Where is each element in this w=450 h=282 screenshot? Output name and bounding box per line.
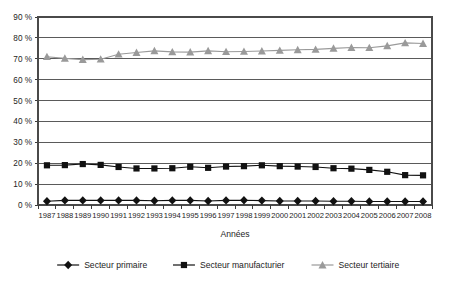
series-line	[47, 43, 423, 60]
series-marker-diamond	[186, 196, 194, 204]
x-axis-ticks: 1987198819891990199119921993199419951996…	[38, 205, 432, 220]
series-marker-square	[181, 262, 187, 268]
series-marker-diamond	[204, 197, 212, 205]
series-marker-diamond	[294, 197, 302, 205]
series-marker-square	[62, 162, 68, 168]
y-tick-label: 0 %	[18, 201, 32, 210]
series-marker-square	[366, 167, 372, 173]
x-tick-label: 1993	[146, 211, 163, 220]
series-marker-square	[205, 165, 211, 171]
x-tick-label: 2003	[325, 211, 342, 220]
series-marker-square	[277, 163, 283, 169]
series-marker-diamond	[312, 197, 320, 205]
series-marker-diamond	[115, 196, 123, 204]
series-marker-square	[115, 164, 121, 170]
series-marker-diamond	[240, 196, 248, 204]
x-tick-label: 1995	[182, 211, 199, 220]
series-marker-square	[348, 166, 354, 172]
series-marker-diamond	[61, 196, 69, 204]
series-marker-square	[187, 164, 193, 170]
x-tick-label: 1990	[92, 211, 109, 220]
series-marker-diamond	[347, 197, 355, 205]
series-marker-square	[133, 165, 139, 171]
series-marker-diamond	[150, 197, 158, 205]
series-marker-square	[402, 172, 408, 178]
series-marker-diamond	[97, 196, 105, 204]
series-marker-square	[98, 162, 104, 168]
y-tick-label: 30 %	[13, 138, 32, 147]
x-tick-label: 2001	[289, 211, 306, 220]
legend-label: Secteur primaire	[84, 260, 147, 270]
y-tick-label: 50 %	[13, 97, 32, 106]
series-marker-square	[80, 161, 86, 167]
y-tick-label: 60 %	[13, 76, 32, 85]
x-tick-label: 1988	[56, 211, 73, 220]
series-marker-square	[259, 162, 265, 168]
x-tick-label: 1997	[218, 211, 235, 220]
x-tick-label: 2000	[271, 211, 288, 220]
gridlines	[38, 17, 432, 184]
line-chart: 0 %10 %20 %30 %40 %50 %60 %70 %80 %90 %1…	[0, 0, 450, 282]
y-tick-label: 90 %	[13, 13, 32, 22]
series-marker-diamond	[276, 197, 284, 205]
series-marker-square	[44, 162, 50, 168]
x-tick-label: 1989	[74, 211, 91, 220]
y-axis-ticks: 0 %10 %20 %30 %40 %50 %60 %70 %80 %90 %	[13, 13, 38, 210]
x-tick-label: 2006	[379, 211, 396, 220]
series-marker-square	[330, 165, 336, 171]
series-marker-diamond	[401, 197, 409, 205]
x-tick-label: 1987	[39, 211, 56, 220]
series-marker-square	[241, 163, 247, 169]
series-marker-diamond	[43, 197, 51, 205]
x-tick-label: 1992	[128, 211, 145, 220]
series-marker-triangle	[43, 53, 51, 60]
legend-item-2[interactable]: Secteur manufacturier	[173, 260, 285, 270]
series-marker-diamond	[383, 197, 391, 205]
x-tick-label: 1999	[253, 211, 270, 220]
series-marker-diamond	[365, 197, 373, 205]
legend-item-3[interactable]: Secteur tertiaire	[312, 260, 400, 270]
x-tick-label: 1998	[236, 211, 253, 220]
series-marker-square	[384, 169, 390, 175]
series-marker-diamond	[330, 197, 338, 205]
x-tick-label: 2005	[361, 211, 378, 220]
legend-item-1[interactable]: Secteur primaire	[57, 260, 147, 270]
x-tick-label: 2002	[307, 211, 324, 220]
legend-label: Secteur manufacturier	[200, 260, 285, 270]
x-tick-label: 1994	[164, 211, 181, 220]
series-marker-diamond	[168, 196, 176, 204]
series-1	[43, 196, 427, 206]
series-marker-square	[223, 163, 229, 169]
x-tick-label: 2004	[343, 211, 360, 220]
legend: Secteur primaireSecteur manufacturierSec…	[57, 260, 399, 270]
series-marker-square	[295, 163, 301, 169]
series-marker-square	[151, 165, 157, 171]
series-marker-square	[169, 165, 175, 171]
series-marker-diamond	[419, 197, 427, 205]
x-axis-title: Années	[220, 229, 249, 239]
y-tick-label: 70 %	[13, 55, 32, 64]
x-tick-label: 2008	[415, 211, 432, 220]
series-marker-square	[312, 164, 318, 170]
series-3	[43, 39, 427, 63]
y-tick-label: 40 %	[13, 117, 32, 126]
series-marker-diamond	[64, 261, 72, 269]
series-marker-diamond	[258, 196, 266, 204]
x-tick-label: 2007	[397, 211, 414, 220]
series-marker-diamond	[133, 196, 141, 204]
x-tick-label: 1991	[110, 211, 127, 220]
series-marker-square	[420, 172, 426, 178]
chart-container: 0 %10 %20 %30 %40 %50 %60 %70 %80 %90 %1…	[0, 0, 450, 282]
plot-border	[38, 17, 432, 205]
y-tick-label: 20 %	[13, 159, 32, 168]
y-tick-label: 10 %	[13, 180, 32, 189]
x-tick-label: 1996	[200, 211, 217, 220]
series-marker-diamond	[79, 196, 87, 204]
legend-label: Secteur tertiaire	[339, 260, 400, 270]
y-tick-label: 80 %	[13, 34, 32, 43]
series-marker-diamond	[222, 196, 230, 204]
